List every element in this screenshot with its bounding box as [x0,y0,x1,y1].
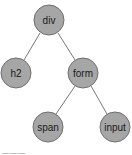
node-label: div [43,15,56,26]
edge-form-span [56,86,75,114]
node-span: span [33,112,63,142]
node-label: h2 [10,68,22,79]
node-form: form [68,58,98,88]
node-label: span [37,122,59,133]
node-label: input [104,122,126,133]
edge-div-form [58,33,75,60]
node-h2: h2 [1,58,31,88]
caption-truncated: ——— [2,146,102,155]
edge-div-h2 [24,33,40,60]
edge-form-input [91,86,107,114]
node-label: form [73,68,93,79]
dom-tree-diagram: div h2 form span input [0,0,132,155]
node-div: div [34,5,64,35]
node-input: input [100,112,130,142]
